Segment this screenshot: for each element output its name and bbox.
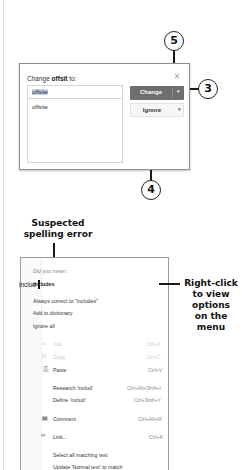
change-button[interactable]: Change ▾ <box>130 86 184 100</box>
suggestion-input[interactable]: offsite <box>27 85 123 99</box>
change-dropdown-icon[interactable]: ▾ <box>173 88 184 94</box>
menu-copy-shortcut: Ctrl+C <box>146 354 238 360</box>
menu-research[interactable]: Research 'includ' <box>53 385 93 391</box>
comment-icon: ▤ <box>42 414 48 421</box>
scissors-icon: ✂ <box>42 340 47 347</box>
menu-icon-strip <box>21 258 42 470</box>
menu-copy[interactable]: Copy <box>53 354 65 360</box>
menu-did-you-mean: Did you mean: <box>33 268 67 274</box>
copy-icon: ⧉ <box>42 353 46 360</box>
menu-suggestion-includes[interactable]: includes <box>33 281 55 287</box>
menu-add-to-dictionary[interactable]: Add to dictionary <box>33 310 72 316</box>
menu-ignore-all[interactable]: Ignore all <box>33 323 55 329</box>
suspected-caption: Suspected spelling error <box>18 218 98 240</box>
menu-comment-shortcut: Ctrl+Alt+M <box>138 416 238 422</box>
close-icon[interactable]: × <box>174 72 180 82</box>
callout-3: 3 <box>198 79 218 99</box>
suggestion-list: offsite <box>27 99 123 163</box>
misspelled-word: offsit <box>52 75 68 82</box>
menu-cut[interactable]: Cut <box>53 341 61 347</box>
callout-5: 5 <box>164 31 184 51</box>
suggestion-item[interactable]: offsite <box>32 104 122 110</box>
ignore-dropdown-icon[interactable]: ▾ <box>174 106 184 112</box>
menu-update-normal-text[interactable]: Update 'Normal text' to match <box>53 464 122 470</box>
dialog-title: Change offsit to: <box>27 75 77 82</box>
menu-select-all-matching[interactable]: Select all matching text <box>53 452 107 458</box>
menu-define[interactable]: Define 'includ' <box>53 397 86 403</box>
menu-link-shortcut: Ctrl+K <box>149 434 238 440</box>
menu-comment[interactable]: Comment <box>53 416 76 422</box>
spelling-dialog: Change offsit to: × offsite offsite Chan… <box>19 63 190 170</box>
menu-cut-shortcut: Ctrl+X <box>146 341 238 347</box>
ignore-button[interactable]: Ignore ▾ <box>130 103 184 117</box>
page-edge <box>3 0 4 470</box>
menu-always-correct[interactable]: Always correct to "includes" <box>33 298 98 304</box>
context-menu <box>20 257 169 470</box>
paste-icon: 📋︎ <box>42 365 50 372</box>
right-click-leader <box>159 283 180 285</box>
menu-link[interactable]: Link... <box>53 434 67 440</box>
menu-define-shortcut: Ctrl+Shift+Y <box>134 397 238 403</box>
menu-research-shortcut: Ctrl+Alt+Shift+I <box>127 385 238 391</box>
link-icon: ∞ <box>41 432 45 438</box>
menu-paste[interactable]: Paste <box>53 367 67 373</box>
callout-4: 4 <box>141 180 161 200</box>
ignore-label: Ignore <box>131 107 173 113</box>
menu-paste-shortcut: Ctrl+V <box>148 367 238 373</box>
right-click-caption: Right-click to view options on the menu <box>182 278 240 333</box>
change-label: Change <box>130 89 172 95</box>
